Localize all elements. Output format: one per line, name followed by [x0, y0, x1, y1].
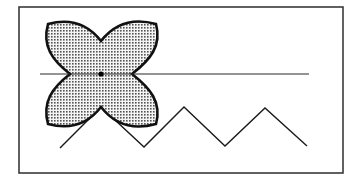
diagram-canvas: [0, 0, 354, 183]
center-point: [98, 71, 103, 76]
